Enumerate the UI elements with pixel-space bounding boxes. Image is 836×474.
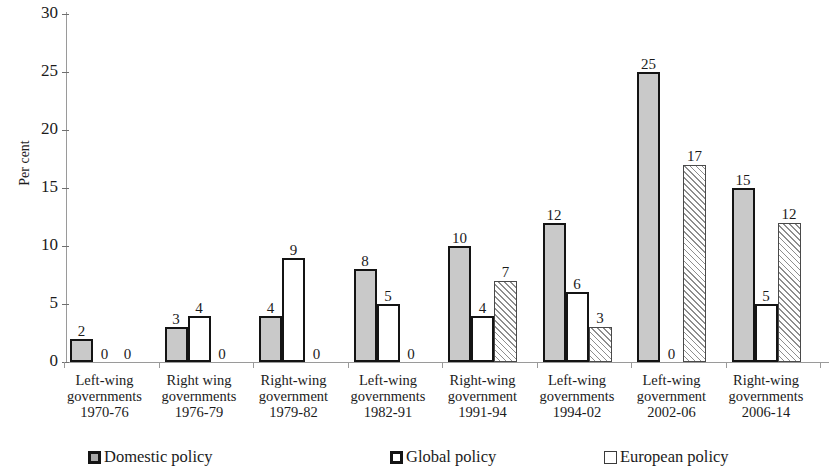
x-tick-mark bbox=[159, 362, 160, 368]
bar-global-3: 5 bbox=[377, 304, 400, 362]
bar-global-5: 6 bbox=[566, 292, 589, 362]
bar-value-label: 3 bbox=[596, 311, 604, 326]
bar-global-1: 4 bbox=[188, 316, 211, 362]
bar-value-label: 2 bbox=[78, 324, 86, 339]
bar-value-label: 4 bbox=[195, 301, 203, 316]
x-tick-mark bbox=[64, 362, 65, 368]
x-category-label-line: government bbox=[435, 388, 531, 404]
bar-global-2: 9 bbox=[282, 258, 305, 362]
bar-global-7: 5 bbox=[755, 304, 778, 362]
bar-domestic-3: 8 bbox=[354, 269, 377, 362]
x-category-label-line: government bbox=[246, 388, 342, 404]
x-category-label-line: 1991-94 bbox=[435, 404, 531, 420]
x-tick-mark bbox=[820, 362, 821, 368]
x-category-label-line: governments bbox=[718, 388, 814, 404]
bar-value-label: 3 bbox=[172, 312, 180, 327]
x-tick-mark bbox=[253, 362, 254, 368]
legend-item-label: Domestic policy bbox=[104, 447, 213, 467]
x-category-label-line: governments bbox=[57, 388, 153, 404]
bar-value-label: 0 bbox=[101, 347, 109, 362]
outlined-white-square-icon bbox=[390, 451, 403, 464]
legend-item-domestic[interactable]: Domestic policy bbox=[88, 447, 213, 467]
x-tick-mark bbox=[726, 362, 727, 368]
x-category-label-0: Left-winggovernments1970-76 bbox=[57, 372, 153, 420]
x-category-label-line: government bbox=[624, 388, 720, 404]
x-tick-mark bbox=[348, 362, 349, 368]
bar-value-label: 8 bbox=[361, 254, 369, 269]
bar-value-label: 5 bbox=[384, 289, 392, 304]
bar-value-label: 0 bbox=[313, 347, 321, 362]
x-tick-mark bbox=[442, 362, 443, 368]
bar-value-label: 12 bbox=[547, 208, 562, 223]
x-category-label-line: Right-wing bbox=[435, 372, 531, 388]
x-category-label-line: 1979-82 bbox=[246, 404, 342, 420]
x-category-label-line: governments bbox=[151, 388, 247, 404]
x-tick-mark bbox=[631, 362, 632, 368]
outlined-light-square-icon bbox=[604, 451, 617, 464]
x-category-label-line: Right-wing bbox=[246, 372, 342, 388]
plot-area: 200340490850104712632501715512 bbox=[0, 0, 836, 380]
bar-domestic-4: 10 bbox=[448, 246, 471, 362]
x-category-label-line: 2006-14 bbox=[718, 404, 814, 420]
x-category-label-2: Right-winggovernment1979-82 bbox=[246, 372, 342, 420]
bar-domestic-7: 15 bbox=[732, 188, 755, 362]
x-category-label-line: Left-wing bbox=[57, 372, 153, 388]
x-category-label-line: Right wing bbox=[151, 372, 247, 388]
x-category-label-line: 1982-91 bbox=[340, 404, 436, 420]
bar-value-label: 9 bbox=[290, 243, 298, 258]
bar-european-7: 12 bbox=[778, 223, 801, 362]
bar-value-label: 0 bbox=[407, 347, 415, 362]
x-category-label-line: 1970-76 bbox=[57, 404, 153, 420]
x-category-label-line: Left-wing bbox=[340, 372, 436, 388]
x-category-label-line: governments bbox=[340, 388, 436, 404]
bar-domestic-1: 3 bbox=[165, 327, 188, 362]
bar-value-label: 12 bbox=[782, 207, 797, 222]
x-category-label-6: Left-winggovernment2002-06 bbox=[624, 372, 720, 420]
bar-value-label: 0 bbox=[218, 347, 226, 362]
bar-chart-figure: Per cent 051015202530 200340490850104712… bbox=[0, 0, 836, 474]
bar-value-label: 4 bbox=[479, 301, 487, 316]
x-category-label-line: 1994-02 bbox=[529, 404, 625, 420]
legend-item-label: Global policy bbox=[406, 447, 496, 467]
x-tick-mark bbox=[537, 362, 538, 368]
x-category-label-line: Left-wing bbox=[529, 372, 625, 388]
legend-item-european[interactable]: European policy bbox=[604, 447, 729, 467]
x-category-label-line: 1976-79 bbox=[151, 404, 247, 420]
bar-value-label: 0 bbox=[668, 347, 676, 362]
chart-legend: Domestic policyGlobal policyEuropean pol… bbox=[0, 443, 836, 471]
bar-domestic-0: 2 bbox=[70, 339, 93, 362]
bar-domestic-6: 25 bbox=[637, 72, 660, 362]
bar-value-label: 4 bbox=[267, 301, 275, 316]
bar-domestic-2: 4 bbox=[259, 316, 282, 362]
bar-european-5: 3 bbox=[589, 327, 612, 362]
bar-domestic-5: 12 bbox=[543, 223, 566, 362]
x-category-label-4: Right-winggovernment1991-94 bbox=[435, 372, 531, 420]
x-category-label-3: Left-winggovernments1982-91 bbox=[340, 372, 436, 420]
bar-european-6: 17 bbox=[683, 165, 706, 362]
bar-value-label: 7 bbox=[502, 265, 510, 280]
bar-value-label: 25 bbox=[641, 57, 656, 72]
x-category-label-5: Left-winggovernments1994-02 bbox=[529, 372, 625, 420]
x-category-label-line: Right-wing bbox=[718, 372, 814, 388]
x-category-label-1: Right winggovernments1976-79 bbox=[151, 372, 247, 420]
x-category-label-7: Right-winggovernments2006-14 bbox=[718, 372, 814, 420]
bar-value-label: 6 bbox=[573, 277, 581, 292]
bar-value-label: 10 bbox=[452, 231, 467, 246]
legend-item-global[interactable]: Global policy bbox=[390, 447, 496, 467]
bar-value-label: 15 bbox=[736, 173, 751, 188]
bar-value-label: 5 bbox=[762, 289, 770, 304]
x-category-label-line: Left-wing bbox=[624, 372, 720, 388]
x-category-label-line: 2002-06 bbox=[624, 404, 720, 420]
bar-value-label: 0 bbox=[124, 347, 132, 362]
filled-gray-square-icon bbox=[88, 451, 101, 464]
bar-value-label: 17 bbox=[687, 149, 702, 164]
bar-global-4: 4 bbox=[471, 316, 494, 362]
bar-european-4: 7 bbox=[494, 281, 517, 362]
x-category-label-line: governments bbox=[529, 388, 625, 404]
legend-item-label: European policy bbox=[620, 447, 729, 467]
